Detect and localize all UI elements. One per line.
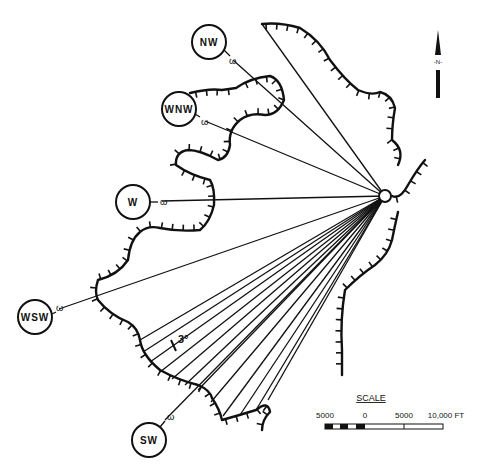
scale-title: SCALE [356,393,386,403]
hachure-tick [128,325,132,329]
hachure-tick [108,270,111,275]
angle-bracket [171,340,176,351]
scale-segment [325,424,333,429]
hachure-tick [304,33,308,38]
hachure-tick [236,416,238,422]
north-label: -N- [434,59,442,65]
hachure-tick [207,185,213,187]
hachure-tick [357,90,359,96]
hachure-tick [128,237,133,240]
hachure-tick [204,215,209,218]
hachure-tick [90,287,96,288]
hachure-tick [100,307,104,311]
hachure-tick [228,89,229,95]
hachure-tick [210,151,213,156]
hachure-tick [393,148,398,150]
hachure-tick [200,146,202,152]
direction-label: SW [140,435,158,446]
hachure-tick [175,150,179,154]
hachure-tick [360,269,364,274]
hachure-tick [133,334,139,336]
fetch-ray [143,196,385,352]
scale-tick-label: 10,000 FT [428,411,465,420]
hachure-tick [385,97,389,101]
hachure-tick [199,222,203,226]
hachure-tick [388,117,394,118]
hachure-tick [110,314,113,319]
fetch-ray [240,196,385,415]
direction-w: W [116,185,150,219]
direction-nw: NW [192,25,226,59]
hachure-tick [141,354,146,357]
hachure-tick [274,105,278,109]
hachure-tick [312,41,316,45]
hachure-tick [182,170,185,175]
fetch-ray [162,196,385,201]
hachure-tick [369,262,372,267]
hachure-tick [405,190,410,193]
hachure-tick [218,154,220,160]
ray-marker-sw: ω [167,411,175,422]
ray-marker-nw: ω [229,55,237,66]
hachure-tick [351,276,355,280]
hachure-tick [137,227,141,232]
direction-label: W [128,197,138,208]
angle-label: 3° [178,333,189,345]
ray-marker-w: ω [160,196,168,207]
hachure-tick [179,380,181,386]
hachure-tick [245,83,248,88]
scale-tick-label: 0 [363,411,368,420]
fetch-ray [211,196,385,402]
hachure-tick [268,109,269,115]
direction-wnw: WNW [162,92,196,126]
hachure-tick [234,117,238,121]
ray-marker-wnw: ω [201,116,209,127]
hachure-tick [192,175,194,181]
hachure-tick [205,393,210,396]
hachure-tick [92,299,97,301]
hachure-tick [245,110,247,116]
direction-label: WSW [21,312,50,323]
hachure-tick [331,67,336,71]
hachure-tick [338,297,344,298]
scale-bar: SCALE 5000 0 5000 10,000 FT [316,393,464,429]
hachure-tick [135,345,141,347]
hachure-tick [423,163,428,167]
hachure-tick [369,93,370,99]
hachure-tick [343,284,347,288]
scale-tick-label: 5000 [316,411,334,420]
hachure-tick [226,419,228,425]
hachure-tick [99,273,101,279]
hachure-tick [247,413,249,419]
hachure-tick [210,403,215,406]
hachure-tick [324,58,329,61]
hachure-tick [214,413,220,415]
hachure-tick [116,264,120,269]
hachure-tick [263,411,268,415]
hachure-tick [272,80,276,84]
hachure-tick [257,409,261,414]
connector-nw [224,50,230,56]
fetch-ray [185,196,385,385]
hachure-tick [276,89,282,91]
origin-point [379,190,391,202]
hachure-tick [203,179,205,185]
fetch-rays [59,24,385,420]
hachure-tick [223,149,228,152]
hachure-tick [297,28,299,34]
hachure-tick [122,257,127,261]
scale-segment [340,424,348,429]
hachure-tick [387,140,392,144]
scale-segment [356,424,365,429]
fetch-ray [172,196,385,379]
fetch-ray [233,60,385,196]
fetch-ray [223,196,385,416]
direction-wsw: WSW [18,300,52,334]
hachure-tick [161,222,162,228]
hachure-tick [170,164,176,165]
ray-marker-wsw: ω [56,302,64,313]
hachure-tick [377,256,381,260]
hachure-tick [150,221,151,227]
hachure-tick [410,181,415,184]
hachure-tick [287,25,288,31]
